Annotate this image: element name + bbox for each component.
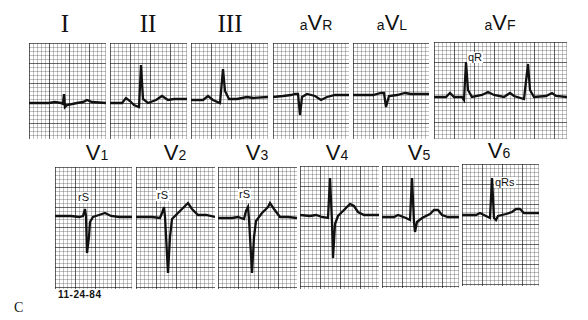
annotation-rS: rS: [238, 189, 251, 200]
lead-main: V: [408, 140, 423, 165]
lead-sub: 2: [178, 147, 186, 163]
lead-sub: 3: [260, 147, 268, 163]
lead-sub: 1: [100, 147, 108, 163]
ecg-panel-V2: rS: [136, 167, 215, 289]
lead-sub: R: [322, 17, 332, 33]
annotation-rS: rS: [77, 192, 90, 203]
ecg-panel-V1: rS: [55, 167, 132, 289]
lead-label-I: I: [50, 10, 80, 38]
lead-main: V: [307, 10, 322, 35]
lead-sub: 5: [422, 147, 430, 163]
ecg-panel-V6: qRs: [462, 164, 539, 286]
lead-label-V4: V4: [322, 140, 352, 166]
annotation-rS: rS: [156, 190, 169, 201]
figure-panel-letter: C: [14, 300, 23, 316]
ecg-panel-I: [29, 43, 106, 139]
lead-prefix: a: [377, 17, 385, 33]
ecg-panel-V3: rS: [218, 167, 297, 289]
ecg-panel-aVF: qR: [434, 42, 567, 139]
lead-main: V: [164, 140, 179, 165]
lead-label-aVR: aVR: [296, 10, 336, 36]
lead-sub: L: [399, 17, 407, 33]
ecg-panel-aVL: [353, 43, 429, 139]
lead-label-III: III: [208, 10, 252, 38]
lead-label-V5: V5: [404, 140, 434, 166]
lead-label-V3: V3: [242, 140, 272, 166]
lead-label-II: II: [128, 10, 168, 38]
ecg-panel-aVR: [273, 43, 349, 139]
ecg-panel-III: [191, 43, 268, 139]
lead-label-aVF: aVF: [480, 10, 520, 36]
lead-label-aVL: aVL: [372, 10, 412, 36]
lead-label-V2: V2: [160, 140, 190, 166]
ecg-panel-V4: [300, 166, 379, 289]
lead-main: V: [326, 140, 341, 165]
lead-sub: F: [507, 17, 516, 33]
lead-main: V: [86, 140, 101, 165]
lead-label-V1: V1: [82, 140, 112, 166]
lead-sub: 6: [502, 145, 510, 161]
lead-label-V6: V6: [484, 138, 514, 164]
ecg-panel-II: [110, 43, 187, 139]
annotation-qR: qR: [467, 52, 483, 63]
annotation-qRs: qRs: [494, 177, 516, 188]
ecg-panel-V5: [382, 166, 459, 288]
recording-date: 11-24-84: [58, 289, 101, 300]
lead-main: V: [385, 10, 400, 35]
lead-main: V: [488, 138, 503, 163]
lead-sub: 4: [340, 147, 348, 163]
lead-main: V: [492, 10, 507, 35]
lead-main: V: [246, 140, 261, 165]
